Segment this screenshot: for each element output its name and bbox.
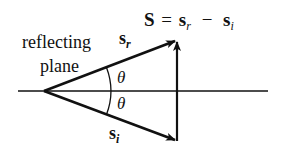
equation-term2-subscript: i xyxy=(231,19,234,33)
equation-term1-subscript: r xyxy=(186,19,191,33)
equation-minus: − xyxy=(202,9,213,30)
equation-equals: = xyxy=(161,9,172,30)
vector-equation: S = sr − si xyxy=(144,9,234,34)
plane-label-line1: reflecting xyxy=(22,32,91,52)
angle-theta-lower: θ xyxy=(117,94,125,113)
reflected-vector-symbol: s xyxy=(119,28,126,48)
incident-vector-label: si xyxy=(109,123,120,146)
incident-vector-subscript: i xyxy=(116,132,120,146)
reflected-vector-label: sr xyxy=(119,28,131,51)
incident-vector-symbol: s xyxy=(109,123,116,143)
angle-theta-upper: θ xyxy=(117,68,125,87)
equation-lhs: S xyxy=(144,9,155,30)
reflected-vector-subscript: r xyxy=(126,37,131,51)
reflection-vector-diagram: reflecting plane sr si θ θ S = sr − si xyxy=(0,0,282,155)
equation-term2: s xyxy=(223,9,230,30)
plane-label-line2: plane xyxy=(40,56,79,76)
equation-term1: s xyxy=(179,9,186,30)
